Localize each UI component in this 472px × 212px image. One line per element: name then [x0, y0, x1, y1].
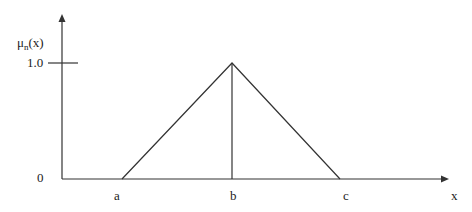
- membership-function-diagram: μn(x) 1.0 0 a b c x: [0, 0, 472, 212]
- point-label-c: c: [343, 188, 349, 203]
- point-label-b: b: [230, 188, 237, 203]
- point-label-a: a: [114, 188, 120, 203]
- x-axis-arrow-icon: [441, 176, 449, 183]
- origin-label: 0: [37, 170, 44, 185]
- y-axis-label: μn(x): [17, 35, 44, 52]
- y-axis-arrow-icon: [59, 14, 66, 22]
- triangle-membership-curve: [122, 63, 340, 179]
- y-tick-label-1-0: 1.0: [27, 55, 43, 70]
- x-axis-label: x: [451, 188, 458, 203]
